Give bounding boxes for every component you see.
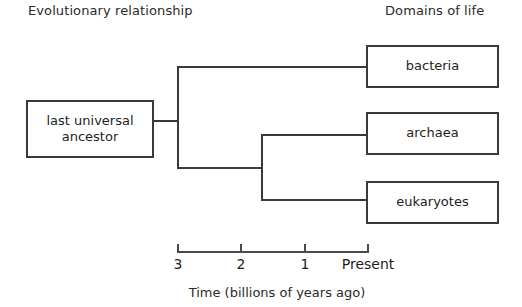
node-label-luca-line2: ancestor [62, 129, 119, 144]
timeline-tick-2 [304, 244, 306, 252]
branch-line-eukaryotes [261, 199, 367, 201]
timeline-tick-1 [240, 244, 242, 252]
node-box-bacteria: bacteria [366, 45, 499, 88]
node-box-archaea: archaea [366, 112, 499, 155]
branch-line-archaea [261, 134, 367, 136]
heading-domains-of-life: Domains of life [385, 3, 484, 18]
timeline-tick-3 [367, 244, 369, 252]
node-box-last-universal-ancestor: last universal ancestor [26, 100, 154, 158]
branch-line-archaea-eukaryote-clade [177, 167, 263, 169]
timeline-axis-line [177, 251, 369, 253]
node-label-eukaryotes: eukaryotes [396, 194, 468, 210]
node-label-bacteria: bacteria [406, 58, 459, 74]
branch-line-bacteria [177, 66, 367, 68]
branch-node-first-split [177, 66, 179, 169]
branch-node-second-split [261, 134, 263, 201]
node-label-luca-line1: last universal [46, 113, 133, 128]
node-box-eukaryotes: eukaryotes [366, 181, 499, 224]
phylogenetic-tree-diagram: Evolutionary relationship Domains of lif… [0, 0, 522, 307]
timeline-axis-caption-text: Time (billions of years ago) [189, 285, 366, 300]
timeline-tick-label-2: 1 [301, 256, 310, 272]
branch-line-ancestor-stem [154, 120, 179, 122]
timeline-axis-caption: Time (billions of years ago) [0, 285, 522, 300]
node-label-archaea: archaea [406, 125, 458, 141]
timeline-tick-label-0: 3 [174, 256, 183, 272]
timeline-tick-label-1: 2 [237, 256, 246, 272]
timeline-tick-0 [177, 244, 179, 252]
timeline-tick-label-3: Present [342, 256, 395, 272]
heading-evolutionary-relationship: Evolutionary relationship [28, 3, 193, 18]
node-label-luca: last universal ancestor [46, 113, 133, 146]
